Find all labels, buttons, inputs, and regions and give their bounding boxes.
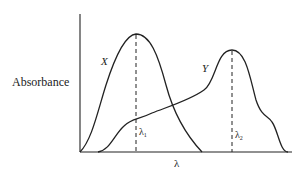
lambda1-subscript: 1 [144, 132, 147, 138]
absorbance-diagram: Absorbance X Y λ1 λ2 λ [0, 0, 302, 173]
curve-x-label: X [100, 55, 109, 67]
lambda1-label: λ1 [139, 126, 147, 138]
x-axis-label: λ [174, 157, 180, 169]
y-axis-label: Absorbance [12, 75, 69, 89]
curve-y [98, 50, 288, 152]
lambda2-subscript: 2 [240, 135, 243, 141]
curve-y-label: Y [202, 62, 210, 74]
lambda2-label: λ2 [235, 129, 243, 141]
